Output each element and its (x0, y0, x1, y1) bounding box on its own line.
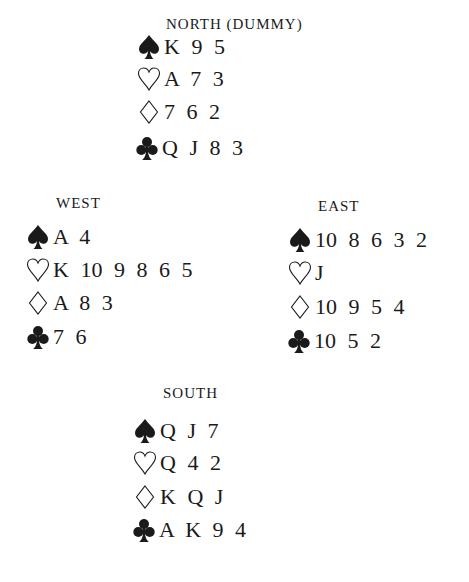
cards-clubs: A K 9 4 (159, 517, 246, 543)
suit-row-spades: Q J 7 (132, 416, 218, 446)
heart-icon (132, 449, 158, 477)
suit-row-diamonds: 10 9 5 4 (287, 292, 405, 322)
suit-row-hearts: A 7 3 (136, 64, 224, 94)
suit-row-clubs: A K 9 4 (131, 515, 246, 545)
suit-row-hearts: J (287, 258, 324, 288)
diamond-icon (132, 483, 158, 511)
heart-icon (25, 256, 51, 284)
suit-row-clubs: Q J 8 3 (134, 133, 243, 163)
club-icon (131, 516, 157, 544)
suit-row-spades: 10 8 6 3 2 (287, 225, 427, 255)
heart-icon (136, 65, 162, 93)
cards-clubs: 10 5 2 (314, 328, 381, 354)
club-icon (134, 134, 160, 162)
hand-title-south: SOUTH (163, 385, 218, 402)
spade-icon (132, 417, 158, 445)
suit-row-diamonds: K Q J (132, 482, 223, 512)
suit-row-spades: A 4 (25, 222, 90, 252)
hand-title-east: EAST (318, 198, 360, 215)
cards-hearts: K 10 9 8 6 5 (53, 257, 192, 283)
suit-row-diamonds: 7 6 2 (136, 97, 220, 127)
cards-hearts: J (315, 260, 324, 286)
cards-clubs: 7 6 (53, 324, 87, 350)
cards-diamonds: 10 9 5 4 (315, 294, 405, 320)
cards-clubs: Q J 8 3 (162, 135, 243, 161)
spade-icon (287, 226, 313, 254)
suit-row-hearts: Q 4 2 (132, 448, 221, 478)
cards-hearts: A 7 3 (164, 66, 224, 92)
suit-row-clubs: 10 5 2 (286, 326, 381, 356)
suit-row-diamonds: A 8 3 (25, 288, 113, 318)
spade-icon (136, 33, 162, 61)
cards-spades: K 9 5 (164, 34, 225, 60)
diamond-icon (25, 289, 51, 317)
cards-hearts: Q 4 2 (160, 450, 221, 476)
hand-title-north: NORTH (DUMMY) (166, 16, 303, 33)
diamond-icon (136, 98, 162, 126)
cards-spades: A 4 (53, 224, 90, 250)
diamond-icon (287, 293, 313, 321)
suit-row-spades: K 9 5 (136, 32, 225, 62)
cards-diamonds: A 8 3 (53, 290, 113, 316)
suit-row-clubs: 7 6 (25, 322, 87, 352)
hand-title-west: WEST (56, 195, 101, 212)
heart-icon (287, 259, 313, 287)
club-icon (25, 323, 51, 351)
spade-icon (25, 223, 51, 251)
club-icon (286, 327, 312, 355)
cards-diamonds: 7 6 2 (164, 99, 220, 125)
cards-spades: 10 8 6 3 2 (315, 227, 427, 253)
suit-row-hearts: K 10 9 8 6 5 (25, 255, 192, 285)
cards-diamonds: K Q J (160, 484, 223, 510)
cards-spades: Q J 7 (160, 418, 218, 444)
